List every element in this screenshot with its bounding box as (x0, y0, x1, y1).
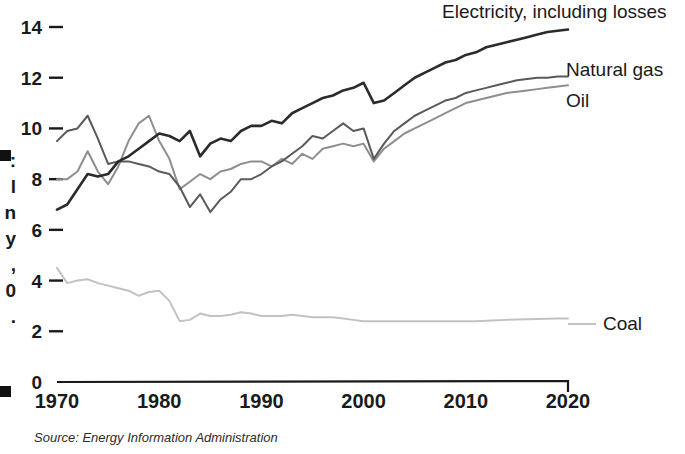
x-axis-tick-label: 2010 (444, 390, 489, 412)
series-line (57, 268, 568, 321)
series-label: Electricity, including losses (442, 1, 667, 22)
y-axis-tick-label: 4 (31, 271, 42, 292)
x-axis-tick-label: 2000 (341, 390, 386, 412)
y-axis-tick-label: 6 (31, 220, 42, 241)
chart-figure: : l n y , 0 . 02468101214197019801990200… (0, 0, 685, 454)
series-label: Natural gas (566, 59, 663, 80)
x-axis-tick-label: 1990 (239, 390, 284, 412)
x-axis-tick-label: 2020 (546, 390, 591, 412)
x-axis-tick-label: 1980 (137, 390, 182, 412)
y-axis-tick-label: 8 (31, 169, 42, 190)
series-line (57, 30, 568, 210)
series-label: Oil (566, 90, 589, 111)
y-axis-tick-label: 14 (21, 17, 43, 38)
y-axis-tick-label: 12 (21, 68, 42, 89)
y-axis-tick-label: 2 (31, 321, 42, 342)
y-axis-tick-label: 10 (21, 118, 42, 139)
x-axis-line (57, 381, 568, 392)
x-axis-tick-label: 1970 (35, 390, 80, 412)
source-note: Source: Energy Information Administratio… (34, 430, 278, 445)
energy-consumption-line-chart: 02468101214197019801990200020102020Elect… (0, 0, 685, 454)
series-label: Coal (603, 313, 642, 334)
